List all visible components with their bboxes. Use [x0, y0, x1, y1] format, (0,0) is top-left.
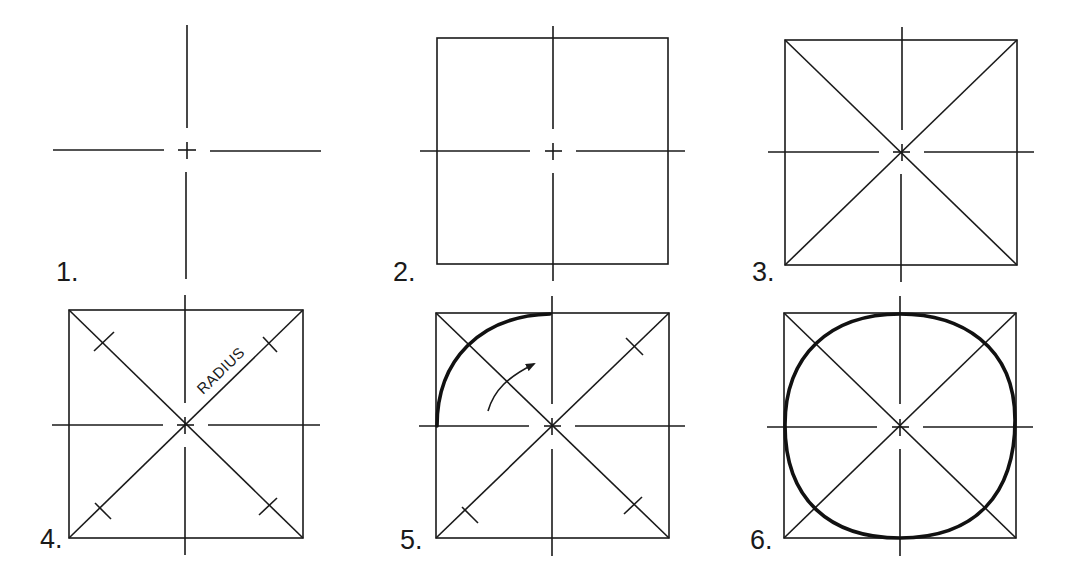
centerlines [53, 25, 321, 279]
step-5-panel: 5. [400, 296, 685, 556]
step-label: 1. [56, 257, 79, 287]
centerlines [420, 26, 685, 281]
step-label: 2. [393, 257, 416, 287]
circle-construction-diagram: 1. 2. 3. [0, 0, 1073, 581]
step-label: 6. [750, 525, 773, 555]
step-6-panel: 6. [750, 296, 1033, 556]
diagonals [69, 310, 303, 538]
step-4-panel: RADIUS 4. [40, 295, 320, 555]
radius-annotation: RADIUS [193, 343, 248, 397]
step-2-panel: 2. [393, 26, 685, 287]
step-label: 4. [40, 524, 63, 554]
step-label: 3. [752, 257, 775, 287]
step-1-panel: 1. [53, 25, 321, 287]
direction-arrow-icon [488, 364, 534, 411]
step-label: 5. [400, 525, 423, 555]
step-3-panel: 3. [752, 27, 1034, 287]
